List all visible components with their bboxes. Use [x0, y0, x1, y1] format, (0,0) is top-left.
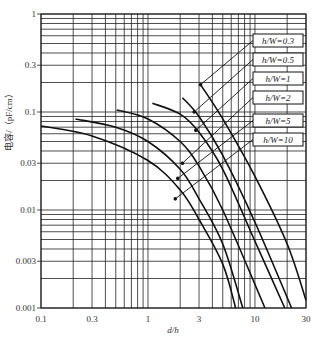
- y-axis-label: 电容/（pF/cm）: [3, 89, 14, 151]
- x-tick-label: 10: [250, 314, 260, 324]
- legend-label: h/W=0.3: [262, 36, 294, 46]
- leader-line: [178, 121, 253, 179]
- y-tick-label: 0.3: [25, 60, 37, 70]
- capacitance-chart: 0.10.31310300.0010.0030.010.030.10.31 h/…: [0, 0, 314, 342]
- x-tick-label: 3: [197, 314, 202, 324]
- x-tick-label: 0.1: [35, 314, 46, 324]
- x-tick-label: 0.3: [86, 314, 98, 324]
- y-tick-label: 0.01: [20, 205, 36, 215]
- marker-dot: [194, 129, 198, 133]
- leader-line: [201, 41, 253, 85]
- marker-dot: [181, 161, 185, 165]
- legend-label: h/W=5: [265, 116, 291, 126]
- legend-label: h/W=0.5: [262, 55, 294, 65]
- legend-label: h/W=1: [265, 74, 290, 84]
- legend-label: h/W=10: [263, 135, 293, 145]
- y-tick-label: 0.003: [16, 256, 37, 266]
- curve-h-w-10: [41, 126, 236, 308]
- y-tick-label: 0.03: [20, 158, 36, 168]
- y-tick-label: 0.1: [25, 107, 36, 117]
- x-axis-label: d/h: [167, 325, 179, 335]
- y-tick-label: 0.001: [16, 303, 36, 313]
- leader-line: [194, 60, 253, 113]
- marker-dot: [192, 110, 196, 114]
- y-tick-label: 1: [32, 9, 37, 19]
- x-tick-label: 30: [302, 314, 312, 324]
- legend-label: h/W=2: [265, 93, 291, 103]
- x-tick-label: 1: [146, 314, 151, 324]
- marker-dot: [176, 177, 180, 181]
- marker-dot: [199, 83, 203, 87]
- marker-dot: [173, 197, 177, 201]
